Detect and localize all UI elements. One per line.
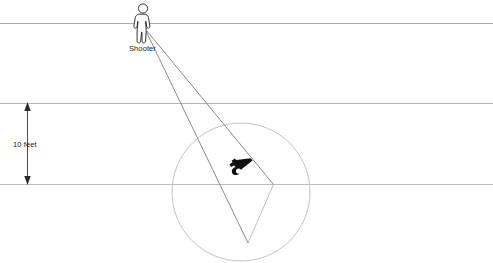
diagram-vector-layer — [0, 0, 493, 263]
cone-right-edge — [147, 31, 274, 185]
handgun-icon — [229, 158, 252, 175]
distance-label: 10 feet — [13, 140, 37, 149]
person-icon-body — [134, 14, 150, 43]
person-icon-head — [138, 4, 147, 13]
person-icon — [134, 4, 150, 43]
target-radius-circle — [172, 123, 310, 261]
handgun-icon-body — [229, 158, 252, 175]
diagram-canvas: Shooter 10 feet — [0, 0, 493, 263]
cone-base-edge — [248, 185, 274, 244]
dimension-arrow-head-down — [24, 176, 30, 185]
cone-left-edge — [146, 31, 248, 243]
handgun-icon-trigger-guard — [236, 168, 241, 173]
cone-of-fire — [146, 31, 274, 243]
shooter-label: Shooter — [129, 44, 156, 53]
